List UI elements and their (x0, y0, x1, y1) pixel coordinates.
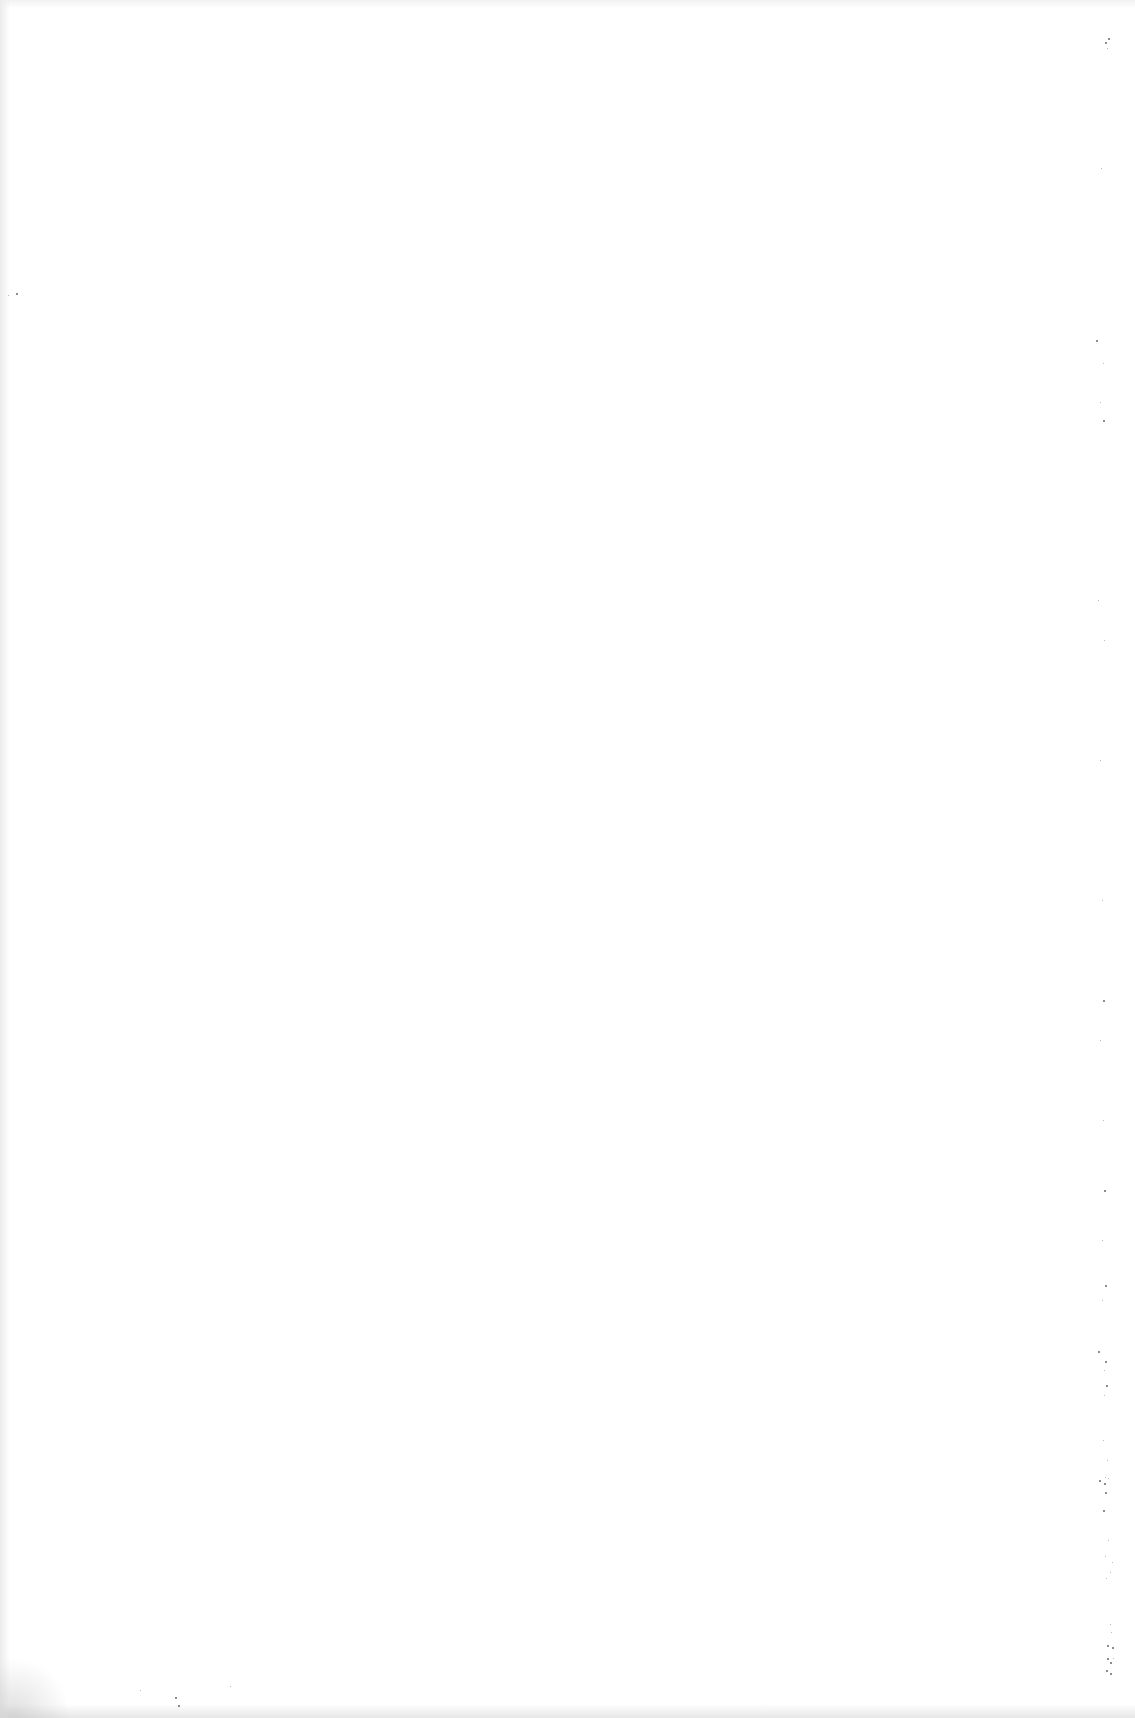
scan-speck (8, 295, 9, 296)
scan-speck (1110, 1673, 1112, 1675)
scan-speck (1104, 1483, 1106, 1485)
scan-speck (1107, 1658, 1109, 1660)
scan-speck (178, 1705, 180, 1707)
scan-speck (1108, 1478, 1109, 1479)
blank-document-page (0, 0, 1135, 1718)
scan-speck (175, 1697, 177, 1699)
scan-speck (1108, 1540, 1109, 1541)
scan-speck (230, 1686, 231, 1687)
scan-speck (1103, 1440, 1104, 1441)
scan-speck (1105, 1492, 1107, 1494)
scan-speck (1112, 1562, 1113, 1563)
scan-speck (1100, 1040, 1101, 1041)
scan-edge-top (0, 0, 1135, 8)
scan-edge-bottom (0, 1704, 1135, 1718)
scan-speck (1099, 1480, 1101, 1482)
scan-speck (1107, 48, 1108, 49)
scan-speck (1104, 1370, 1105, 1371)
scan-speck (1098, 1351, 1100, 1353)
scan-speck (1107, 1645, 1109, 1647)
scan-speck (1108, 38, 1110, 40)
scan-speck (1104, 640, 1105, 641)
scan-speck (1098, 600, 1099, 601)
scan-speck (1103, 1510, 1105, 1512)
scan-speck (1103, 1000, 1105, 1002)
scan-speck (1105, 1361, 1107, 1363)
scan-speck (1104, 1395, 1105, 1396)
scan-speck (140, 1690, 141, 1691)
scan-speck (1102, 1240, 1103, 1241)
scan-speck (1106, 1385, 1108, 1387)
scan-speck (1105, 42, 1107, 44)
scan-speck (1104, 1190, 1106, 1192)
scan-speck (16, 293, 18, 295)
scan-speck (1105, 1285, 1107, 1287)
scan-speck (1110, 1572, 1111, 1573)
scan-speck (1106, 1578, 1107, 1579)
scan-speck (1111, 1632, 1112, 1633)
scan-speck (1103, 363, 1104, 364)
scan-edge-left (0, 0, 10, 1718)
scan-speck (1110, 1662, 1112, 1664)
scan-speck (1105, 1477, 1106, 1478)
scan-speck (1112, 1647, 1114, 1649)
scan-speck (1102, 1300, 1103, 1301)
scan-speck (1096, 340, 1098, 342)
scan-speck (1101, 168, 1102, 169)
scan-speck (1103, 420, 1105, 422)
scan-speck (1100, 402, 1101, 403)
scan-speck (1113, 1658, 1114, 1659)
scan-speck (1107, 1460, 1108, 1461)
scan-speck (1105, 1556, 1106, 1557)
scan-speck (1110, 1624, 1111, 1625)
scan-speck (1106, 1670, 1108, 1672)
scan-speck (1100, 760, 1101, 761)
scan-speck (1103, 1120, 1104, 1121)
scan-speck (1102, 900, 1103, 901)
scan-smudge (0, 1658, 70, 1718)
